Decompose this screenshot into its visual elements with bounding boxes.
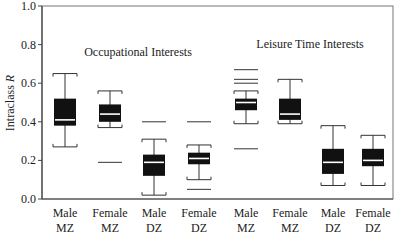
x-label-line2: MZ	[56, 221, 74, 235]
x-label-line2: DZ	[365, 221, 381, 235]
chart-svg: 0.00.20.40.60.81.0 Intraclass R Occupati…	[0, 0, 395, 237]
box-plot-chart: 0.00.20.40.60.81.0 Intraclass R Occupati…	[0, 0, 395, 237]
y-tick-label: 0.6	[21, 76, 36, 90]
x-label-line1: Male	[53, 206, 78, 220]
box-7	[321, 126, 345, 186]
y-tick-label: 0.2	[21, 153, 36, 167]
y-tick-label: 1.0	[21, 0, 36, 13]
iqr-box	[99, 104, 121, 121]
iqr-box	[143, 155, 165, 176]
x-label-line1: Male	[234, 206, 259, 220]
x-label-line2: DZ	[191, 221, 207, 235]
x-label-line2: DZ	[325, 221, 341, 235]
x-label-line1: Male	[142, 206, 167, 220]
box-5	[234, 70, 258, 149]
x-label-line1: Female	[92, 206, 127, 220]
group-annotations: Occupational InterestsLeisure Time Inter…	[84, 37, 364, 59]
x-label-line1: Male	[321, 206, 346, 220]
x-label-line2: MZ	[101, 221, 119, 235]
box-3	[142, 122, 166, 195]
box-series	[53, 70, 385, 195]
annotation-occupational: Occupational Interests	[84, 45, 192, 59]
iqr-box	[322, 149, 344, 174]
y-tick-label: 0.4	[21, 115, 36, 129]
x-label-line1: Female	[272, 206, 307, 220]
box-4	[187, 122, 211, 190]
x-label-line2: MZ	[237, 221, 255, 235]
y-axis-label: Intraclass R	[3, 74, 17, 131]
y-tick-label: 0.0	[21, 192, 36, 206]
x-axis-labels: MaleMZFemaleMZMaleDZFemaleDZMaleMZFemale…	[53, 206, 391, 235]
box-2	[98, 91, 122, 162]
iqr-box	[235, 99, 257, 111]
iqr-box	[279, 99, 301, 120]
x-label-line1: Female	[181, 206, 216, 220]
y-axis: 0.00.20.40.60.81.0	[21, 0, 42, 206]
x-label-line1: Female	[355, 206, 390, 220]
iqr-box	[54, 99, 76, 126]
box-1	[53, 74, 77, 147]
box-8	[361, 135, 385, 185]
annotation-leisure: Leisure Time Interests	[256, 37, 364, 51]
y-tick-label: 0.8	[21, 38, 36, 52]
x-label-line2: DZ	[146, 221, 162, 235]
iqr-box	[362, 149, 384, 166]
box-6	[278, 79, 302, 123]
x-label-line2: MZ	[281, 221, 299, 235]
